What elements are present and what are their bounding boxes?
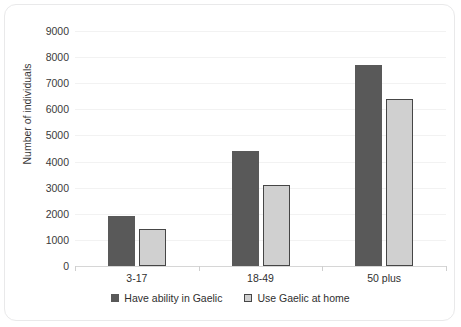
y-axis-tick-label: 3000	[29, 183, 69, 194]
gridline	[75, 57, 446, 58]
legend-label: Use Gaelic at home	[257, 292, 349, 304]
legend-label: Have ability in Gaelic	[124, 292, 222, 304]
x-axis-category-label: 50 plus	[322, 272, 446, 284]
y-axis-tick-label: 4000	[29, 157, 69, 168]
bar	[355, 65, 382, 266]
y-axis-tick-label: 6000	[29, 104, 69, 115]
x-axis-line	[75, 266, 446, 267]
bar	[108, 216, 135, 266]
y-axis-tick-label: 2000	[29, 209, 69, 220]
y-axis-tick-label: 0	[29, 261, 69, 272]
x-axis-category-label: 3-17	[75, 272, 199, 284]
legend-item[interactable]: Have ability in Gaelic	[111, 292, 222, 304]
x-axis-category-label: 18-49	[199, 272, 323, 284]
gridline	[75, 31, 446, 32]
bar	[232, 151, 259, 266]
legend-swatch-icon	[111, 294, 119, 302]
x-axis-tick	[446, 266, 447, 271]
bar	[263, 185, 290, 266]
legend-item[interactable]: Use Gaelic at home	[244, 292, 349, 304]
y-axis-tick-labels: 9000800070006000500040003000200010000	[27, 31, 69, 266]
x-axis-tick	[199, 266, 200, 271]
y-axis-tick-label: 1000	[29, 235, 69, 246]
bar	[139, 229, 166, 266]
x-axis-tick	[322, 266, 323, 271]
plot-area	[75, 31, 446, 266]
y-axis-tick-label: 8000	[29, 52, 69, 63]
gridline	[75, 83, 446, 84]
legend-swatch-icon	[244, 294, 252, 302]
bar	[386, 99, 413, 266]
x-axis-tick	[75, 266, 76, 271]
y-axis-tick-label: 5000	[29, 130, 69, 141]
chart-legend: Have ability in GaelicUse Gaelic at home	[0, 292, 461, 304]
y-axis-tick-label: 9000	[29, 26, 69, 37]
y-axis-tick-label: 7000	[29, 78, 69, 89]
